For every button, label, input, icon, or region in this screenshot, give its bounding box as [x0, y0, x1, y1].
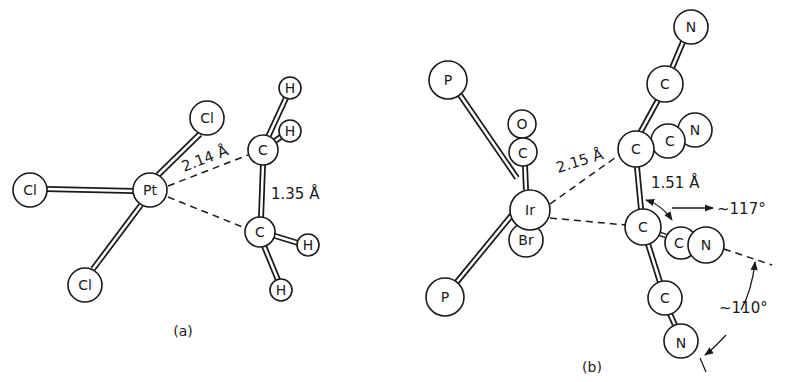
- atom-h4: H: [270, 279, 292, 301]
- bond-c-upper-c-top: [640, 100, 658, 133]
- dashed-bond-pt-c-bottom: [168, 197, 245, 228]
- atom-pt: Pt: [133, 173, 167, 207]
- bond-c-lower-c-bottom: [648, 244, 660, 282]
- svg-text:N: N: [686, 19, 696, 35]
- bond-c-top-n-top: [672, 42, 683, 68]
- angle-label-117: ~117°: [717, 200, 766, 218]
- svg-text:Cl: Cl: [78, 277, 92, 293]
- svg-text:C: C: [638, 219, 648, 235]
- atom-h2: H: [279, 120, 301, 142]
- svg-text:H: H: [285, 123, 296, 139]
- bond-c-bottom-n-bottom: [670, 314, 675, 325]
- svg-text:H: H: [276, 282, 287, 298]
- svg-text:N: N: [701, 237, 711, 253]
- atom-h3: H: [297, 234, 319, 256]
- svg-text:Ir: Ir: [525, 202, 535, 218]
- bond-c-c-single: [637, 167, 641, 209]
- dashed-bond-ir-c-lower: [550, 218, 626, 225]
- bond-pt-cl-left: [46, 189, 134, 191]
- svg-text:N: N: [690, 122, 700, 138]
- atom-cl-bottom: Cl: [68, 268, 102, 302]
- bond-c-h4: [264, 246, 278, 280]
- svg-text:Pt: Pt: [143, 182, 157, 198]
- atom-c-cn-upper-right: C: [651, 124, 685, 158]
- distance-label-c-c: 1.51 Å: [651, 173, 700, 192]
- svg-text:P: P: [444, 72, 452, 88]
- atom-p-top: P: [429, 61, 467, 99]
- atom-p-bottom: P: [426, 278, 464, 316]
- atom-n-lower-right: N: [688, 227, 724, 263]
- bond-c-h3: [272, 235, 298, 243]
- bond-ir-p-top: [460, 95, 517, 178]
- svg-text:H: H: [285, 80, 296, 96]
- atom-c-upper: C: [618, 131, 654, 167]
- atom-c-carbonyl: C: [509, 138, 537, 166]
- svg-text:P: P: [441, 289, 449, 305]
- svg-text:C: C: [518, 145, 528, 161]
- svg-text:C: C: [660, 290, 670, 306]
- svg-text:C: C: [631, 141, 641, 157]
- panel-b-iridium-complex: N C N C C C N C N C P P: [426, 10, 772, 375]
- svg-text:Cl: Cl: [23, 182, 37, 198]
- svg-text:N: N: [676, 335, 686, 351]
- atom-cl-left: Cl: [13, 173, 47, 207]
- svg-text:Br: Br: [518, 232, 534, 248]
- panel-caption-b: (b): [582, 359, 602, 375]
- distance-label-c-c: 1.35 Å: [271, 184, 320, 203]
- atom-c-bottom: C: [245, 217, 275, 247]
- bond-ir-c-co: [525, 166, 526, 190]
- svg-text:C: C: [674, 235, 684, 251]
- atom-n-bottom: N: [664, 324, 698, 358]
- dashed-reference-line: [724, 249, 772, 265]
- atom-c-cn-top: C: [647, 66, 683, 102]
- atom-c-cn-bottom: C: [648, 281, 682, 315]
- atom-ir: Ir: [510, 190, 550, 230]
- atom-cl-top: Cl: [190, 101, 224, 135]
- panel-caption-a: (a): [173, 323, 193, 339]
- svg-text:H: H: [303, 237, 314, 253]
- svg-text:Cl: Cl: [200, 110, 214, 126]
- angle-label-110: ~110°: [719, 299, 768, 317]
- svg-text:C: C: [665, 133, 675, 149]
- bond-c-c-double: [261, 164, 263, 218]
- atom-o: O: [508, 110, 536, 138]
- svg-text:O: O: [516, 116, 527, 132]
- svg-text:C: C: [258, 142, 268, 158]
- atom-c-lower: C: [625, 209, 661, 245]
- molecular-structure-figure: H H C C H H Cl Cl Cl Pt 2.14 Å 1.35 Å: [0, 0, 794, 382]
- svg-text:C: C: [660, 76, 670, 92]
- atom-h1: H: [279, 77, 301, 99]
- svg-text:C: C: [255, 224, 265, 240]
- bond-pt-cl-bottom: [93, 205, 141, 269]
- atom-c-top: C: [248, 135, 278, 165]
- atom-n-top: N: [674, 10, 708, 44]
- distance-label-ir-c: 2.15 Å: [554, 144, 607, 177]
- bond-stub-n-bottom: [700, 358, 706, 372]
- panel-a-zeise-salt: H H C C H H Cl Cl Cl Pt 2.14 Å 1.35 Å: [13, 77, 320, 339]
- bond-ir-p-bottom: [456, 210, 516, 283]
